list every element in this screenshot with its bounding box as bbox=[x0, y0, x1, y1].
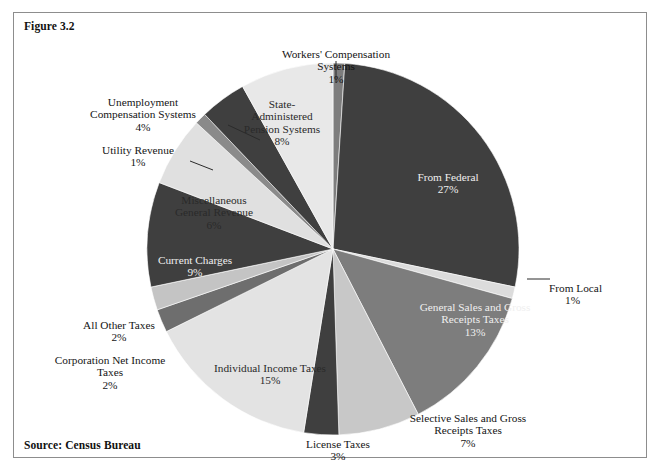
label-selective-sales-name: Selective Sales and Gross Receipts Taxes bbox=[410, 412, 526, 437]
label-corporation-net-income-pct: 2% bbox=[34, 379, 186, 392]
label-miscellaneous-general-revenue: Miscellaneous General Revenue 6% bbox=[144, 181, 284, 244]
label-individual-income-pct: 15% bbox=[190, 374, 350, 387]
label-state-pension-name: State- Administered Pension Systems bbox=[244, 98, 320, 135]
label-current-charges-name: Current Charges bbox=[158, 254, 232, 266]
label-miscellaneous-general-revenue-pct: 6% bbox=[144, 219, 284, 232]
label-all-other-taxes-name: All Other Taxes bbox=[83, 319, 155, 331]
label-selective-sales: Selective Sales and Gross Receipts Taxes… bbox=[384, 399, 552, 462]
label-from-federal-pct: 27% bbox=[388, 183, 508, 196]
label-unemployment-compensation-pct: 4% bbox=[58, 121, 228, 134]
label-general-sales-pct: 13% bbox=[399, 326, 551, 339]
label-current-charges: Current Charges 9% bbox=[130, 241, 260, 291]
label-from-local: From Local 1% bbox=[549, 269, 633, 319]
label-from-local-name: From Local bbox=[549, 282, 602, 294]
label-general-sales-name: General Sales and Gross Receipts Taxes bbox=[420, 301, 531, 326]
label-current-charges-pct: 9% bbox=[130, 266, 260, 279]
label-license-taxes-name: License Taxes bbox=[306, 438, 370, 450]
label-individual-income: Individual Income Taxes 15% bbox=[190, 349, 350, 399]
label-from-local-pct: 1% bbox=[549, 294, 633, 307]
label-individual-income-name: Individual Income Taxes bbox=[214, 362, 326, 374]
label-workers-compensation-name: Workers' Compensation Systems bbox=[282, 48, 390, 73]
label-selective-sales-pct: 7% bbox=[384, 437, 552, 450]
label-state-pension-pct: 8% bbox=[226, 135, 338, 148]
label-all-other-taxes-pct: 2% bbox=[52, 331, 186, 344]
label-license-taxes-pct: 3% bbox=[286, 450, 390, 463]
label-license-taxes: License Taxes 3% bbox=[286, 425, 390, 470]
figure-source: Source: Census Bureau bbox=[24, 439, 141, 451]
label-miscellaneous-general-revenue-name: Miscellaneous General Revenue bbox=[175, 194, 253, 219]
label-general-sales: General Sales and Gross Receipts Taxes 1… bbox=[399, 288, 551, 351]
label-all-other-taxes: All Other Taxes 2% bbox=[52, 306, 186, 356]
label-from-federal-name: From Federal bbox=[417, 171, 478, 183]
label-utility-revenue-pct: 1% bbox=[86, 156, 190, 169]
label-state-pension: State- Administered Pension Systems 8% bbox=[226, 85, 338, 161]
label-unemployment-compensation-name: Unemployment Compensation Systems bbox=[90, 96, 196, 121]
label-from-federal: From Federal 27% bbox=[388, 158, 508, 208]
label-workers-compensation-pct: 1% bbox=[252, 73, 420, 86]
label-corporation-net-income-name: Corporation Net Income Taxes bbox=[55, 354, 165, 379]
label-unemployment-compensation: Unemployment Compensation Systems 4% bbox=[58, 83, 228, 146]
figure-container: Figure 3.2 Workers' Compensation Systems… bbox=[13, 12, 647, 458]
